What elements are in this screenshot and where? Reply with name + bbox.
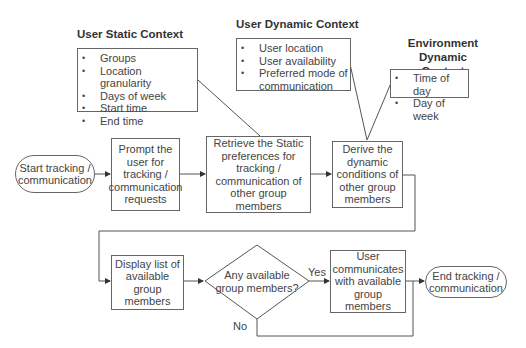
context-item: Preferred mode of communication xyxy=(239,67,348,92)
context-item: Day of week xyxy=(393,97,466,122)
derive-dynamic-conditions-step: Derive the dynamic conditions of other g… xyxy=(332,141,403,208)
context-item: Groups xyxy=(80,52,195,65)
user-dynamic-context-box: User location User availability Preferre… xyxy=(236,38,351,91)
decision-label: Any available group members? xyxy=(215,269,299,294)
prompt-user-step: Prompt the user for tracking / communica… xyxy=(111,138,180,211)
environment-dynamic-context-box: Time of day Day of week xyxy=(390,69,469,98)
yes-label: Yes xyxy=(308,266,326,278)
context-item: End time xyxy=(80,115,195,128)
context-item: User availability xyxy=(239,55,348,68)
context-item: Time of day xyxy=(393,72,466,97)
context-item: Start time xyxy=(80,102,195,115)
context-item: Days of week xyxy=(80,90,195,103)
end-terminal: End tracking / communication xyxy=(425,266,507,298)
user-communicates-step: User communicates with available group m… xyxy=(330,250,406,313)
context-item: Location granularity xyxy=(80,65,195,90)
user-dynamic-context-heading: User Dynamic Context xyxy=(236,17,359,31)
user-static-context-box: Groups Location granularity Days of week… xyxy=(77,48,198,112)
no-label: No xyxy=(233,320,247,332)
start-terminal: Start tracking / communication xyxy=(15,155,95,193)
user-dynamic-link xyxy=(350,64,367,140)
display-available-members-step: Display list of available group members xyxy=(111,255,184,310)
context-item: User location xyxy=(239,42,348,55)
user-static-context-heading: User Static Context xyxy=(77,27,183,41)
retrieve-static-preferences-step: Retrieve the Static preferences for trac… xyxy=(206,136,311,213)
env-dynamic-link xyxy=(367,83,391,140)
